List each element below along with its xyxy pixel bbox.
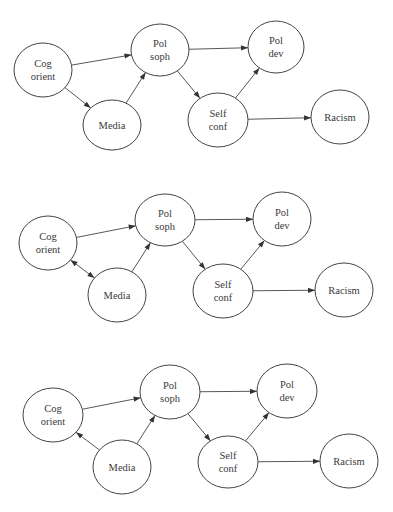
node-self-conf: Selfconf (188, 93, 248, 147)
node-label: Pol (163, 380, 177, 391)
node-pol-soph: Polsoph (135, 194, 195, 246)
arrowhead-icon (71, 260, 78, 266)
arrowhead-icon (133, 397, 140, 402)
node-label: soph (155, 221, 176, 232)
node-label: Self (220, 450, 237, 461)
edge-cog-orient-to-pol-soph (82, 397, 140, 410)
node-cog-orient: Cogorient (23, 388, 83, 442)
arrowhead-icon (241, 45, 248, 50)
arrowhead-icon (144, 243, 150, 250)
edge-media-to-cog-orient (76, 432, 99, 450)
node-label: soph (150, 51, 171, 62)
edge-pol-soph-to-self-conf (177, 71, 200, 98)
node-self-conf: Selfconf (198, 436, 258, 488)
node-label: Self (210, 108, 227, 119)
node-label: Racism (328, 285, 360, 296)
edge-pol-soph-to-pol-dev (189, 45, 248, 50)
node-label: orient (36, 244, 61, 255)
node-media: Media (88, 268, 146, 322)
arrowhead-icon (128, 225, 135, 230)
edge-pol-soph-to-pol-dev (200, 389, 257, 394)
path-model-2: CogorientPolsophPoldevMediaSelfconfRacis… (19, 192, 373, 322)
node-label: Media (104, 290, 131, 301)
node-label: dev (279, 392, 295, 403)
arrowhead-icon (140, 73, 146, 80)
node-label: Cog (34, 58, 52, 69)
edge-media-to-pol-soph (132, 243, 151, 272)
edge-self-conf-to-racism (253, 288, 315, 293)
edge-media-to-pol-soph (126, 73, 146, 104)
node-label: dev (274, 220, 290, 231)
edge-self-conf-to-pol-dev (246, 413, 270, 441)
arrowhead-icon (84, 102, 91, 108)
arrowhead-icon (308, 288, 315, 293)
node-cog-orient: Cogorient (14, 43, 72, 97)
node-label: Pol (275, 207, 289, 218)
node-label: Pol (158, 208, 172, 219)
arrowhead-icon (313, 459, 320, 464)
node-label: orient (41, 416, 66, 427)
edge-cog-orient-to-media (71, 260, 95, 278)
edge-line (258, 461, 320, 462)
node-pol-soph: Polsoph (140, 365, 200, 419)
node-racism: Racism (311, 90, 369, 144)
node-label: Media (109, 462, 136, 473)
node-media: Media (93, 440, 151, 494)
node-media: Media (83, 100, 141, 150)
edge-pol-soph-to-self-conf (182, 241, 205, 269)
path-diagram-canvas: CogorientPolsophPoldevMediaSelfconfRacis… (0, 0, 393, 512)
node-label: Media (99, 120, 126, 131)
node-pol-dev: Poldev (257, 364, 317, 418)
node-racism: Racism (320, 434, 378, 488)
edge-line (253, 290, 315, 291)
edge-cog-orient-to-pol-soph (76, 225, 135, 238)
node-label: conf (209, 121, 228, 132)
node-label: Pol (153, 38, 167, 49)
node-label: Racism (333, 456, 365, 467)
node-label: Pol (280, 379, 294, 390)
node-label: Racism (324, 112, 356, 123)
path-model-1: CogorientPolsophPoldevMediaSelfconfRacis… (14, 21, 369, 150)
arrowhead-icon (246, 217, 253, 222)
path-model-3: CogorientPolsophPoldevMediaSelfconfRacis… (23, 364, 378, 494)
node-label: dev (268, 48, 284, 59)
arrowhead-icon (253, 68, 259, 75)
edge-line (72, 55, 132, 65)
edge-line (248, 118, 311, 120)
node-pol-dev: Poldev (248, 21, 304, 73)
node-pol-soph: Polsoph (131, 24, 189, 76)
edge-pol-soph-to-pol-dev (195, 217, 253, 222)
arrowhead-icon (250, 389, 257, 394)
arrowhead-icon (124, 53, 131, 58)
edge-self-conf-to-pol-dev (235, 68, 259, 98)
edge-media-to-pol-soph (137, 415, 155, 443)
node-label: Cog (39, 231, 57, 242)
node-label: soph (160, 393, 181, 404)
edge-line (76, 226, 135, 238)
node-racism: Racism (315, 263, 373, 317)
node-self-conf: Selfconf (193, 264, 253, 318)
edge-cog-orient-to-media (65, 88, 91, 108)
arrowhead-icon (76, 432, 83, 438)
arrowhead-icon (149, 415, 155, 422)
edge-cog-orient-to-pol-soph (72, 53, 132, 65)
node-label: Self (215, 279, 232, 290)
node-label: Cog (44, 403, 62, 414)
edge-line (82, 398, 140, 409)
node-label: orient (31, 71, 56, 82)
edge-line (189, 48, 248, 50)
edge-self-conf-to-pol-dev (241, 240, 265, 269)
arrowhead-icon (304, 115, 311, 120)
edge-self-conf-to-racism (258, 459, 320, 464)
node-label: Pol (269, 35, 283, 46)
node-pol-dev: Poldev (253, 192, 311, 246)
node-cog-orient: Cogorient (19, 216, 77, 270)
node-label: conf (219, 463, 238, 474)
arrowhead-icon (87, 272, 94, 278)
edge-self-conf-to-racism (248, 115, 311, 120)
node-label: conf (214, 292, 233, 303)
edge-pol-soph-to-self-conf (188, 414, 211, 441)
